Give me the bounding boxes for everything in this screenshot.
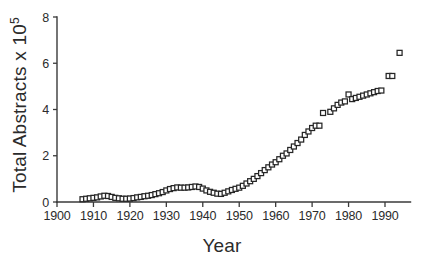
scatter-plot-svg: 02468 1900191019201930194019501960197019… [0,0,424,261]
axes-group [57,17,411,202]
y-tick-label: 6 [42,57,49,71]
data-point-marker [317,123,322,128]
data-point-marker [342,99,347,104]
data-point-marker [379,88,384,93]
data-point-marker [321,110,326,115]
x-tick-label: 1900 [43,209,70,223]
x-tick-label: 1930 [153,209,180,223]
x-tick-label: 1950 [226,209,253,223]
x-tick-label: 1960 [262,209,289,223]
x-tick-label: 1920 [116,209,143,223]
x-tick-label: 1990 [371,209,398,223]
x-tick-label: 1970 [299,209,326,223]
y-tick-label: 0 [42,196,49,210]
chart-figure: 02468 1900191019201930194019501960197019… [0,0,424,261]
y-axis-title-group: Total Abstracts x 105 [8,17,30,193]
y-tick-label: 4 [42,103,49,117]
x-axis-title: Year [202,235,242,256]
y-axis-ticks: 02468 [42,11,57,210]
x-tick-label: 1910 [80,209,107,223]
x-tick-label: 1940 [189,209,216,223]
data-point-markers [80,50,402,201]
data-point-marker [390,73,395,78]
y-tick-label: 8 [42,11,49,25]
y-tick-label: 2 [42,149,49,163]
x-axis-ticks: 1900191019201930194019501960197019801990 [43,202,398,223]
x-tick-label: 1980 [335,209,362,223]
data-point-marker [397,50,402,55]
y-axis-title: Total Abstracts x 105 [8,17,30,193]
